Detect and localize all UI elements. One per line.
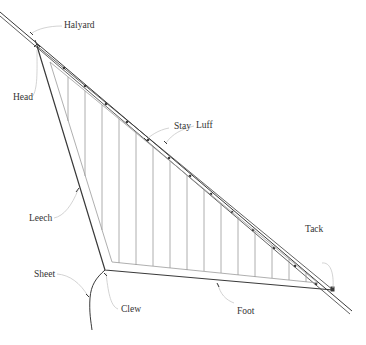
label-leech: Leech	[29, 214, 52, 224]
tack-fitting	[331, 287, 334, 291]
hank-marks	[63, 67, 318, 286]
leader-sheet	[57, 274, 88, 296]
label-tack: Tack	[305, 225, 323, 235]
sail-diagram	[0, 0, 366, 345]
sheet-line	[90, 270, 105, 330]
leader-clew	[106, 273, 118, 309]
label-foot: Foot	[237, 307, 254, 317]
leader-foot	[218, 284, 234, 303]
label-sheet: Sheet	[34, 270, 55, 280]
panel-seams	[68, 77, 306, 282]
sail-outline	[37, 46, 333, 290]
leader-leech	[54, 190, 78, 218]
leader-head	[32, 50, 37, 97]
sail-inner-outline	[50, 62, 318, 283]
label-stay: Stay	[174, 122, 191, 132]
label-head: Head	[13, 93, 33, 103]
leader-tack	[322, 263, 333, 288]
leader-arrows	[30, 32, 219, 297]
label-halyard: Halyard	[64, 21, 95, 31]
label-clew: Clew	[121, 305, 141, 315]
leader-halyard	[32, 26, 62, 33]
label-luff: Luff	[196, 121, 213, 131]
